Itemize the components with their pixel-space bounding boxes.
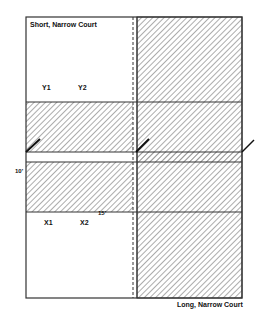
label-x2: X2 — [80, 219, 89, 226]
court-diagram: Short, Narrow Court Y1 Y2 10' 15' X1 X2 … — [0, 0, 267, 328]
label-y2: Y2 — [78, 84, 87, 91]
label-y1: Y1 — [42, 84, 51, 91]
net-post-right — [242, 140, 254, 152]
upper-hatched-band — [26, 102, 133, 152]
center-strip-right — [137, 152, 242, 162]
title-short-narrow-court: Short, Narrow Court — [30, 21, 98, 29]
title-long-narrow-court: Long, Narrow Court — [177, 301, 243, 309]
label-15ft: 15' — [98, 210, 107, 216]
lower-hatched-band — [26, 162, 133, 212]
label-x1: X1 — [44, 219, 53, 226]
label-10ft: 10' — [15, 168, 24, 174]
